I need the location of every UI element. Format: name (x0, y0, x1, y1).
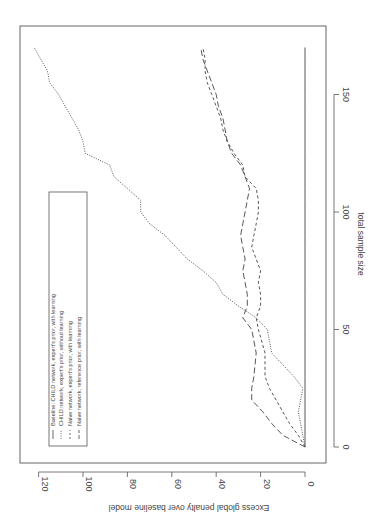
y-tick-label: 20 (262, 479, 272, 489)
legend-item-child-no-learning: CHILD network, expert's prior, without l… (58, 311, 64, 426)
x-tick-label: 100 (341, 204, 351, 219)
x-axis-label: total sample size (356, 212, 366, 276)
x-tick-label: 50 (341, 324, 351, 334)
y-tick-label: 0 (306, 481, 316, 486)
y-tick-label: 60 (173, 479, 183, 489)
series-line-2 (203, 48, 305, 448)
series-line-3 (201, 48, 305, 448)
y-tick-label: 120 (40, 476, 50, 491)
x-tick-label: 0 (341, 444, 351, 449)
value-axis: 020406080100120 (39, 472, 316, 492)
y-tick-label: 40 (217, 479, 227, 489)
sample-axis: 050100150 (334, 87, 351, 450)
legend: Baseline: CHILD network, expert's prior,… (49, 192, 87, 446)
legend-item-baseline: Baseline: CHILD network, expert's prior,… (50, 294, 56, 426)
x-tick-label: 150 (341, 87, 351, 102)
legend-item-naive-expert: Naive network, expert's prior, with lear… (67, 321, 73, 426)
y-axis-label: Excess global penalty over baseline mode… (109, 503, 270, 513)
legend-item-naive-reference: Naive network, reference prior, with lea… (76, 317, 82, 426)
chart: 020406080100120 050100150 total sample s… (0, 0, 378, 517)
y-tick-label: 80 (128, 479, 138, 489)
y-tick-label: 100 (84, 476, 94, 491)
